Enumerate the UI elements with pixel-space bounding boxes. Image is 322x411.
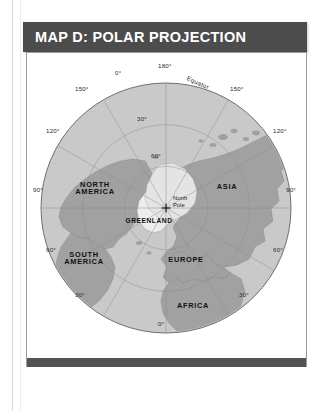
polar-projection-map: 180° 0° 150° 120° 90° 60° 30° 0° 30° 60°…	[27, 53, 307, 367]
grid-label-180-top: 180°	[158, 63, 172, 69]
grid-label-150-upperright: 150°	[230, 86, 244, 92]
panel-footer-bar	[27, 358, 306, 367]
page-margin-rule-outer	[12, 0, 13, 411]
continent-label-south-america: SOUTH AMERICA	[57, 251, 111, 266]
grid-label-30-lowerright: 30°	[239, 292, 249, 298]
continent-label-north-america: NORTH AMERICA	[68, 181, 122, 196]
continent-label-europe: EUROPE	[162, 256, 210, 263]
continent-label-north-america-line2: AMERICA	[68, 188, 122, 195]
continent-label-asia: ASIA	[207, 183, 247, 190]
north-pole-label-line2: Pole	[173, 202, 187, 209]
grid-label-60-lowerright: 60°	[273, 247, 283, 253]
continent-label-africa: AFRICA	[169, 302, 217, 309]
page-title: MAP D: POLAR PROJECTION	[23, 29, 246, 45]
grid-label-0-topleft: 0°	[115, 70, 121, 76]
page-margin-rule-inner	[20, 0, 21, 411]
grid-label-120-left: 120°	[46, 128, 60, 134]
grid-label-120-right: 120°	[273, 128, 287, 134]
grid-label-90-right: 90°	[286, 187, 296, 193]
grid-label-150-upperleft: 150°	[75, 86, 89, 92]
map-title-bar: MAP D: POLAR PROJECTION	[23, 22, 307, 52]
latitude-label-30: 30°	[137, 116, 147, 122]
grid-label-90-left: 90°	[33, 187, 43, 193]
grid-label-0-bottom: 0°	[158, 321, 164, 327]
latitude-label-60: 60°	[151, 153, 161, 159]
map-graphic	[27, 53, 307, 367]
grid-label-60-lowerleft: 60°	[46, 247, 56, 253]
north-pole-label-line1: North	[173, 195, 187, 202]
map-content-panel: 180° 0° 150° 120° 90° 60° 30° 0° 30° 60°…	[26, 52, 307, 367]
continent-label-south-america-line2: AMERICA	[57, 258, 111, 265]
continent-label-greenland: GREENLAND	[118, 218, 180, 225]
grid-label-30-lowerleft: 30°	[75, 292, 85, 298]
north-pole-label: North Pole	[173, 195, 187, 209]
